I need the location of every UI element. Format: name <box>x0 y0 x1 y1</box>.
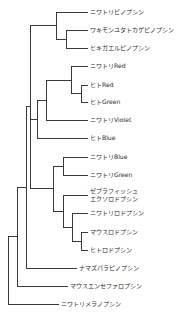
leaf-label-human-rhodopsin: ヒトロドプシン <box>90 246 132 253</box>
leaf-label-lizard-pinopsin: ワキモンユタトカゲピノプシン <box>90 26 174 33</box>
leaf-label-human-red: ヒトRed <box>90 81 114 88</box>
leaf-label-chicken-green: ニワトリGreen <box>90 171 132 178</box>
leaf-label-chicken-pinopsin: ニワトリピノプシン <box>90 8 144 15</box>
leaf-label-chicken-melanopsin: ニワトリメラノプシン <box>61 300 121 307</box>
leaf-label-zebrafish-exorhodopsin: ゼブラフィッシュ エクソロドプシン <box>90 187 138 203</box>
leaf-label-human-green: ヒトGreen <box>90 98 120 105</box>
leaf-label-chicken-red: ニワトリRed <box>90 62 126 69</box>
leaf-label-human-blue: ヒトBlue <box>90 134 116 141</box>
leaf-label-mouse-encephalopsin: マウスエンセファロプシン <box>70 282 142 289</box>
leaf-label-catfish-parapinopsin: ナマズパラピノプシン <box>79 264 139 271</box>
leaf-label-chicken-rhodopsin: ニワトリロドプシン <box>90 209 144 216</box>
phylogenetic-tree-figure: ニワトリピノプシンワキモンユタトカゲピノプシンヒキガエルピノプシンニワトリRed… <box>0 0 188 314</box>
leaf-label-chicken-blue: ニワトリBlue <box>90 153 128 160</box>
leaf-label-mouse-rhodopsin: マウスロドプシン <box>90 228 138 235</box>
leaf-label-chicken-violet: ニワトリViolet <box>90 116 131 123</box>
leaf-label-toad-pinopsin: ヒキガエルピノプシン <box>90 44 150 51</box>
